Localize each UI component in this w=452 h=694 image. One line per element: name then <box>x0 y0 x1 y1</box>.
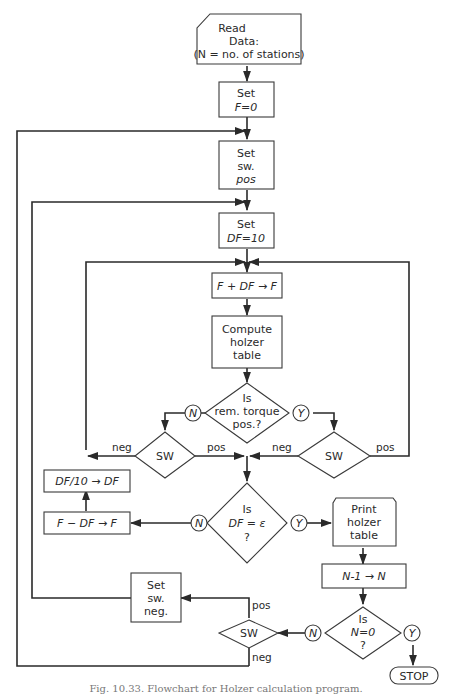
svg-text:Print: Print <box>351 503 377 516</box>
svg-text:pos: pos <box>235 173 256 186</box>
stations-label: (N = no. of stations) <box>193 48 304 61</box>
svg-text:table: table <box>233 349 261 362</box>
is-torque-decision: Is rem. torque pos.? <box>205 383 289 443</box>
svg-text:Is: Is <box>359 613 368 626</box>
is-df-epsilon-decision: Is DF = ε ? <box>207 483 287 563</box>
svg-text:holzer: holzer <box>347 516 381 529</box>
sw-bottom-neg-label: neg <box>252 651 272 663</box>
n-decrement-node: N-1 → N <box>322 564 406 588</box>
svg-text:DF = ε: DF = ε <box>229 517 266 530</box>
svg-text:SW: SW <box>156 450 174 463</box>
svg-text:F + DF → F: F + DF → F <box>217 280 278 293</box>
svg-text:N=0: N=0 <box>351 626 375 639</box>
set-df-node: Set DF=10 <box>219 213 274 248</box>
svg-text:SW: SW <box>325 450 343 463</box>
sw-bottom-decision: SW <box>219 620 278 648</box>
sw-left-decision: SW <box>135 432 195 478</box>
read-data-node: Read Data: (N = no. of stations) <box>193 14 304 64</box>
stop-terminal: STOP <box>390 667 438 684</box>
df-no-circle: N <box>191 515 207 531</box>
flowchart-diagram: Read Data: (N = no. of stations) Set F=0… <box>0 0 452 694</box>
set-sw-neg-node: Set sw. neg. <box>131 573 181 622</box>
torque-yes-circle: Y <box>293 405 309 421</box>
svg-text:F − DF → F: F − DF → F <box>57 517 118 530</box>
svg-text:table: table <box>350 529 378 542</box>
n-no-circle: N <box>305 625 321 641</box>
compute-node: Compute holzer table <box>212 316 282 368</box>
svg-text:?: ? <box>244 531 250 544</box>
svg-text:pos.?: pos.? <box>233 418 262 431</box>
svg-text:DF/10 → DF: DF/10 → DF <box>55 475 119 488</box>
svg-text:Set: Set <box>237 87 256 100</box>
svg-text:Is: Is <box>243 503 252 516</box>
sw-left-pos-label: pos <box>207 441 226 453</box>
print-node: Print holzer table <box>333 498 396 546</box>
sw-right-decision: SW <box>298 432 370 478</box>
f-plus-df-node: F + DF → F <box>212 273 282 298</box>
is-n-zero-decision: Is N=0 ? <box>325 607 401 659</box>
svg-text:F=0: F=0 <box>235 101 258 114</box>
sw-bottom-pos-label: pos <box>252 599 271 611</box>
svg-text:Set: Set <box>147 579 166 592</box>
svg-text:N: N <box>309 627 317 640</box>
svg-text:Is: Is <box>243 392 252 405</box>
svg-text:?: ? <box>360 639 366 652</box>
figure-caption: Fig. 10.33. Flowchart for Holzer calcula… <box>89 683 362 694</box>
svg-text:Set: Set <box>237 218 256 231</box>
svg-text:N-1 → N: N-1 → N <box>342 570 386 583</box>
svg-text:holzer: holzer <box>230 336 264 349</box>
f-minus-df-node: F − DF → F <box>44 512 130 534</box>
sw-right-neg-label: neg <box>272 441 292 453</box>
svg-text:DF=10: DF=10 <box>227 232 265 245</box>
sw-right-pos-label: pos <box>376 441 395 453</box>
set-f-node: Set F=0 <box>219 82 274 117</box>
df-divide-node: DF/10 → DF <box>44 470 130 492</box>
svg-text:N: N <box>189 407 197 420</box>
torque-no-circle: N <box>185 405 201 421</box>
df-yes-circle: Y <box>291 515 307 531</box>
svg-text:N: N <box>195 517 203 530</box>
data-label: Data: <box>229 35 259 48</box>
svg-text:neg.: neg. <box>144 605 168 618</box>
svg-text:sw.: sw. <box>147 592 164 605</box>
svg-text:STOP: STOP <box>400 670 429 683</box>
svg-text:Set: Set <box>237 147 256 160</box>
sw-left-neg-label: neg <box>112 441 132 453</box>
svg-text:Compute: Compute <box>222 323 272 336</box>
svg-text:sw.: sw. <box>237 160 254 173</box>
set-sw-pos-node: Set sw. pos <box>219 141 274 189</box>
n-yes-circle: Y <box>404 625 420 641</box>
svg-text:SW: SW <box>240 627 258 640</box>
svg-text:rem. torque: rem. torque <box>215 405 280 418</box>
read-label: Read <box>218 22 246 35</box>
